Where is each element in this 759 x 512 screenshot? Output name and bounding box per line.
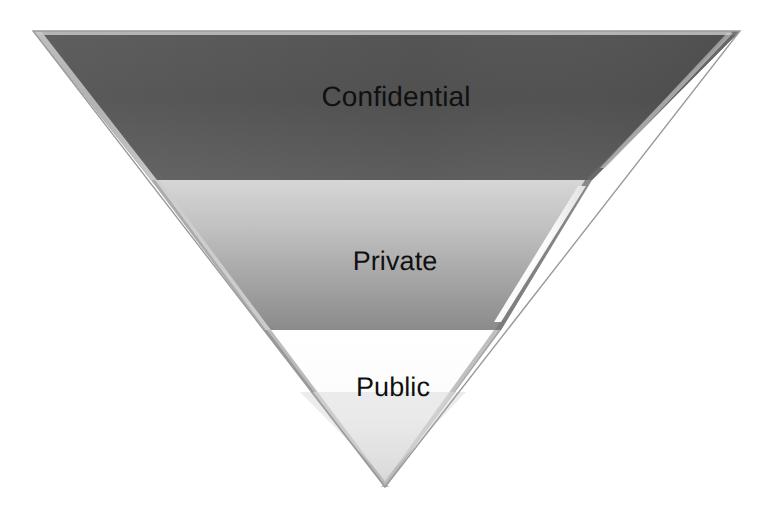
layer-private (151, 180, 592, 330)
inverted-pyramid-graphic (0, 0, 759, 512)
layer-confidential (33, 31, 740, 180)
layer-public (264, 330, 501, 487)
diagram-canvas: Confidential Private Public (0, 0, 759, 512)
